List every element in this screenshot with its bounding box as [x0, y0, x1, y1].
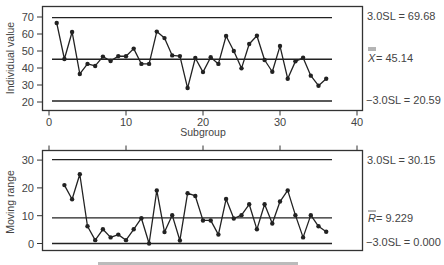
data-point — [209, 55, 213, 59]
data-point — [278, 44, 282, 48]
individuals-center-label: X = 45.14 — [367, 48, 413, 64]
data-point — [193, 56, 197, 60]
data-point — [178, 238, 182, 242]
x-tick-label: 10 — [120, 116, 132, 128]
data-point — [124, 54, 128, 58]
individuals-x-axis: 010203040 — [46, 111, 363, 128]
data-point — [70, 30, 74, 34]
data-point — [132, 46, 136, 50]
data-point — [262, 58, 266, 62]
data-point — [247, 202, 251, 206]
data-point — [108, 59, 112, 63]
data-point — [162, 36, 166, 40]
moving-range-y-axis: 0102030 — [22, 154, 43, 249]
data-point — [201, 218, 205, 222]
data-point — [309, 73, 313, 77]
moving-range-series — [62, 172, 328, 246]
data-point — [78, 72, 82, 76]
moving-range-lcl-label: −3.0SL = 0.000 — [366, 236, 441, 248]
individuals-ucl-label: 3.0SL = 69.68 — [367, 10, 435, 22]
data-point — [101, 227, 105, 231]
data-point — [70, 197, 74, 201]
x-double-bar-symbol: X — [367, 52, 376, 64]
individuals-center-value: = 45.14 — [376, 52, 413, 64]
data-point — [293, 59, 297, 63]
data-point — [178, 54, 182, 58]
individuals-plot-frame — [43, 7, 363, 111]
data-point — [301, 56, 305, 60]
data-point — [255, 34, 259, 38]
x-axis-title: Subgroup — [180, 126, 226, 138]
data-point — [147, 62, 151, 66]
moving-range-x-axis — [49, 146, 357, 151]
moving-range-center-label: R = 9.229 — [368, 211, 413, 224]
data-point — [239, 213, 243, 217]
control-chart: 203040506070 010203040 Individual value … — [0, 0, 444, 265]
y-tick-label: 30 — [22, 79, 34, 91]
data-point — [239, 66, 243, 70]
data-point — [101, 54, 105, 58]
y-tick-label: 70 — [22, 11, 34, 23]
individuals-series — [55, 21, 329, 91]
x-tick-label: 30 — [274, 116, 286, 128]
data-point — [324, 77, 328, 81]
individuals-control-lines — [52, 18, 332, 101]
y-tick-label: 30 — [22, 154, 34, 166]
moving-range-center-value: = 9.229 — [376, 212, 413, 224]
data-point — [185, 191, 189, 195]
data-point — [124, 238, 128, 242]
data-point — [155, 29, 159, 33]
moving-range-control-lines — [52, 160, 332, 244]
data-point — [85, 62, 89, 66]
y-tick-label: 20 — [22, 96, 34, 108]
y-tick-label: 0 — [28, 238, 34, 250]
individuals-lcl-label: −3.0SL = 20.59 — [366, 94, 441, 106]
data-point — [62, 183, 66, 187]
data-point — [132, 227, 136, 231]
data-point — [309, 213, 313, 217]
data-point — [270, 221, 274, 225]
data-point — [116, 232, 120, 236]
data-point — [193, 194, 197, 198]
individuals-y-axis: 203040506070 — [22, 11, 43, 108]
data-point — [201, 70, 205, 74]
moving-range-plot-frame — [43, 151, 363, 251]
data-point — [116, 54, 120, 58]
y-tick-label: 10 — [22, 210, 34, 222]
data-point — [155, 188, 159, 192]
data-point — [232, 216, 236, 220]
data-point — [247, 42, 251, 46]
data-point — [139, 216, 143, 220]
data-point — [170, 213, 174, 217]
y-tick-label: 60 — [22, 28, 34, 40]
y-tick-label: 50 — [22, 45, 34, 57]
data-point — [224, 34, 228, 38]
x-tick-label: 40 — [351, 116, 363, 128]
data-point — [85, 224, 89, 228]
data-point — [224, 197, 228, 201]
data-point — [162, 230, 166, 234]
data-point — [216, 62, 220, 66]
data-point — [170, 53, 174, 57]
data-point — [139, 62, 143, 66]
data-point — [93, 64, 97, 68]
data-point — [185, 86, 189, 90]
data-point — [55, 21, 59, 25]
data-point — [62, 57, 66, 61]
data-point — [262, 202, 266, 206]
data-point — [78, 172, 82, 176]
data-point — [147, 241, 151, 245]
data-point — [324, 230, 328, 234]
data-point — [286, 77, 290, 81]
data-point — [316, 83, 320, 87]
data-point — [270, 70, 274, 74]
moving-range-ucl-label: 3.0SL = 30.15 — [367, 154, 435, 166]
r-bar-symbol: R — [368, 212, 376, 224]
data-point — [286, 188, 290, 192]
data-point — [209, 218, 213, 222]
data-point — [278, 199, 282, 203]
x-tick-label: 0 — [46, 116, 52, 128]
data-point — [232, 49, 236, 53]
series-line — [64, 174, 326, 243]
data-point — [293, 213, 297, 217]
